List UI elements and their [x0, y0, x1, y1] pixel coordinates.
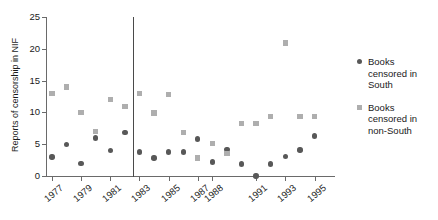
data-point [151, 110, 156, 115]
data-point [93, 135, 98, 140]
x-axis-tick [139, 176, 140, 181]
x-axis-tick [285, 176, 286, 181]
data-point [239, 161, 244, 166]
legend-label: Books censored in non-South [368, 102, 435, 137]
x-axis-tick [81, 176, 82, 181]
data-point [64, 84, 69, 89]
data-point [224, 151, 229, 156]
x-axis-tick [110, 176, 111, 181]
y-axis-tick-label: 20 [0, 43, 40, 54]
data-point [239, 121, 244, 126]
data-point [49, 154, 54, 159]
x-axis-tick-label: 1977 [42, 182, 65, 204]
data-point [151, 155, 156, 160]
data-point [195, 155, 200, 160]
x-axis-tick-label: 1979 [71, 182, 94, 204]
x-axis-tick-label: 1981 [100, 182, 123, 204]
y-axis-tick-label: 5 [0, 138, 40, 149]
data-point [195, 136, 200, 141]
data-point [210, 141, 215, 146]
x-axis-tick-label: 1995 [304, 182, 327, 204]
x-axis-tick-label: 1983 [129, 182, 152, 204]
data-point [253, 121, 258, 126]
y-axis-tick-label: 25 [0, 11, 40, 22]
data-point [268, 114, 273, 119]
data-point [312, 114, 317, 119]
x-axis-tick-label: 1991 [246, 182, 269, 204]
data-point [210, 159, 215, 164]
data-point [297, 147, 302, 152]
data-point [283, 154, 288, 159]
data-point [181, 130, 186, 135]
data-point [312, 133, 317, 138]
data-point [78, 161, 83, 166]
y-axis-tick [42, 144, 47, 145]
data-point [166, 149, 171, 154]
y-axis-tick-label: 10 [0, 106, 40, 117]
x-axis-line [46, 176, 335, 177]
y-axis-tick [42, 176, 47, 177]
y-axis-line [46, 17, 47, 177]
y-axis-tick-label: 0 [0, 170, 40, 181]
y-axis-tick [42, 112, 47, 113]
legend-circle-icon [357, 59, 362, 64]
y-axis-tick [42, 17, 47, 18]
legend-entry[interactable]: Books censored in South [357, 56, 435, 91]
data-point [108, 148, 113, 153]
data-point [181, 149, 186, 154]
data-point [137, 91, 142, 96]
data-point [93, 129, 98, 134]
y-axis-title: Reports of censorship in NIF [10, 10, 24, 180]
data-point [268, 161, 273, 166]
legend-label: Books censored in South [368, 56, 435, 91]
x-axis-tick-label: 1985 [158, 182, 181, 204]
data-point [122, 104, 127, 109]
data-point [49, 91, 54, 96]
data-point [297, 114, 302, 119]
data-point [78, 110, 83, 115]
data-point [166, 92, 171, 97]
data-point [64, 142, 69, 147]
data-point [137, 149, 142, 154]
data-point [122, 130, 127, 135]
x-axis-tick [198, 176, 199, 181]
x-axis-tick [315, 176, 316, 181]
x-axis-tick [169, 176, 170, 181]
x-axis-tick [52, 176, 53, 181]
y-axis-tick [42, 49, 47, 50]
y-axis-tick [42, 81, 47, 82]
data-point [283, 40, 288, 45]
data-point [253, 173, 258, 178]
vertical-reference-line [133, 17, 134, 177]
y-axis-tick-label: 15 [0, 75, 40, 86]
legend-square-icon [357, 105, 362, 110]
chart-legend: Books censored in SouthBooks censored in… [357, 56, 435, 147]
scatter-chart-figure: Reports of censorship in NIF 0510152025 … [0, 0, 438, 220]
x-axis-tick [212, 176, 213, 181]
x-axis-tick-label: 1993 [275, 182, 298, 204]
legend-entry[interactable]: Books censored in non-South [357, 102, 435, 137]
data-point [108, 97, 113, 102]
